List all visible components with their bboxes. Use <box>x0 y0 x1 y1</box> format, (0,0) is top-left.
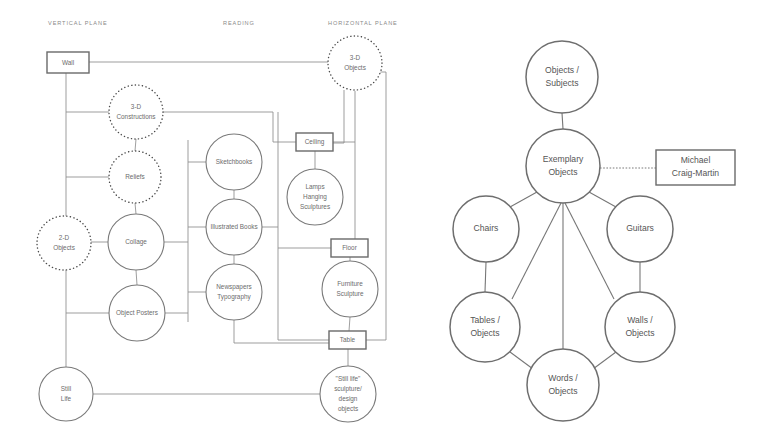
words-objects-label-line-1: Words / <box>548 373 578 383</box>
node-reliefs[interactable]: Reliefs <box>109 151 161 203</box>
node-2d-objects[interactable]: 2-D Objects <box>37 216 91 270</box>
edge-collage-to-object-posters <box>136 270 137 285</box>
tables-objects-label-line-2: Objects <box>470 328 499 338</box>
exemplary-objects-label-line-2: Objects <box>548 167 577 177</box>
node-chairs[interactable]: Chairs <box>453 196 519 262</box>
michael-craig-martin-label-line-2: Craig-Martin <box>672 168 719 178</box>
node-michael-craig-martin[interactable]: Michael Craig-Martin <box>656 150 735 185</box>
2d-objects-label-line-1: 2-D <box>59 234 70 241</box>
tables-objects-label-line-1: Tables / <box>470 315 500 325</box>
words-objects-label-line-2: Objects <box>548 386 577 396</box>
node-sketchbooks[interactable]: Sketchbooks <box>206 134 262 190</box>
right-diagram-nodes: Objects / Subjects Exemplary Objects Cha… <box>450 41 735 421</box>
object-posters-label: Object Posters <box>116 309 158 317</box>
floor-label: Floor <box>342 244 357 251</box>
wall-label: Wall <box>62 59 74 66</box>
3d-objects-label-line-2: Objects <box>344 64 366 72</box>
walls-objects-label-line-2: Objects <box>625 328 654 338</box>
node-objects-subjects[interactable]: Objects / Subjects <box>526 41 598 113</box>
still-life-sculpture-label-line-1: "Still life" <box>336 375 361 382</box>
header-horizontal-plane: HORIZONTAL PLANE <box>328 20 398 26</box>
still-life-label-line-1: Still <box>61 385 71 392</box>
edge-exemplary-to-walls-objects <box>565 203 614 299</box>
2d-objects-label-line-2: Objects <box>53 244 75 252</box>
node-lamps-hanging-sculptures[interactable]: Lamps Hanging Sculptures <box>287 169 343 225</box>
node-3d-objects[interactable]: 3-D Objects <box>328 36 382 90</box>
objects-subjects-label-line-2: Subjects <box>546 78 579 88</box>
node-tables-objects[interactable]: Tables / Objects <box>450 292 520 362</box>
node-3d-constructions[interactable]: 3-D Constructions <box>109 85 163 139</box>
node-floor[interactable]: Floor <box>331 239 368 257</box>
edge-tables-objects-to-words-objects <box>510 352 533 369</box>
objects-subjects-circle[interactable] <box>526 41 598 113</box>
node-guitars[interactable]: Guitars <box>607 196 673 262</box>
edge-reliefs-to-collage <box>135 203 136 214</box>
illustrated-books-label: Illustrated Books <box>210 223 257 230</box>
3d-objects-label-line-1: 3-D <box>350 54 361 61</box>
header-reading: READING <box>223 20 255 26</box>
edge-exemplary-to-chairs <box>510 192 537 207</box>
node-still-life-sculpture-design-objects[interactable]: "Still life" sculpture/ design objects <box>320 366 376 422</box>
ceiling-label: Ceiling <box>305 138 325 146</box>
walls-objects-label-line-1: Walls / <box>627 315 653 325</box>
node-illustrated-books[interactable]: Illustrated Books <box>206 199 262 255</box>
diagram-svg: Wall Ceiling Floor Table 3-D Objects <box>0 0 772 442</box>
node-object-posters[interactable]: Object Posters <box>109 285 165 341</box>
edge-walls-objects-to-words-objects <box>593 352 616 369</box>
reliefs-label: Reliefs <box>125 173 145 180</box>
exemplary-objects-label-line-1: Exemplary <box>543 154 584 164</box>
michael-craig-martin-label-line-1: Michael <box>681 155 711 165</box>
still-life-sculpture-label-line-2: sculpture/ <box>334 385 362 393</box>
node-walls-objects[interactable]: Walls / Objects <box>605 292 675 362</box>
diagram-canvas: Wall Ceiling Floor Table 3-D Objects <box>0 0 772 442</box>
still-life-label-line-2: Life <box>61 395 72 402</box>
still-life-sculpture-label-line-4: objects <box>338 405 358 413</box>
edge-exemplary-to-guitars <box>589 192 616 207</box>
newspapers-typography-label-line-1: Newspapers <box>216 283 252 291</box>
edge-furniture-to-table <box>349 317 350 331</box>
node-exemplary-objects[interactable]: Exemplary Objects <box>526 129 600 203</box>
walls-objects-circle[interactable] <box>605 292 675 362</box>
guitars-label: Guitars <box>626 223 654 233</box>
table-label: Table <box>340 336 356 343</box>
edge-newspapers-to-table <box>234 320 329 343</box>
3d-constructions-label-line-1: 3-D <box>131 103 142 110</box>
node-still-life[interactable]: Still Life <box>39 367 93 421</box>
node-newspapers-typography[interactable]: Newspapers Typography <box>206 264 262 320</box>
sketchbooks-label: Sketchbooks <box>216 158 253 165</box>
edge-3dconstructions-to-reliefs <box>135 139 136 151</box>
node-collage[interactable]: Collage <box>108 214 164 270</box>
edge-exemplary-to-tables-objects <box>512 203 561 299</box>
lamps-label-line-3: Sculptures <box>300 203 330 211</box>
exemplary-objects-circle[interactable] <box>526 129 600 203</box>
header-vertical-plane: VERTICAL PLANE <box>48 20 108 26</box>
edge-objects-subjects-to-exemplary <box>562 113 563 129</box>
node-table[interactable]: Table <box>329 331 366 349</box>
3d-constructions-label-line-2: Constructions <box>116 113 155 120</box>
lamps-label-line-1: Lamps <box>305 183 324 191</box>
node-wall[interactable]: Wall <box>47 52 89 73</box>
edge-chairs-to-tables-objects <box>485 262 486 292</box>
tables-objects-circle[interactable] <box>450 292 520 362</box>
still-life-sculpture-label-line-3: design <box>339 395 358 403</box>
newspapers-typography-label-line-2: Typography <box>217 293 251 301</box>
lamps-label-line-2: Hanging <box>303 193 327 201</box>
collage-label: Collage <box>125 238 147 246</box>
left-diagram-nodes: Wall Ceiling Floor Table 3-D Objects <box>37 20 398 422</box>
furniture-sculpture-label-line-2: Sculpture <box>337 290 364 298</box>
furniture-sculpture-label-line-1: Furniture <box>337 280 363 287</box>
node-ceiling[interactable]: Ceiling <box>296 133 333 151</box>
chairs-label: Chairs <box>474 223 499 233</box>
words-objects-circle[interactable] <box>527 349 599 421</box>
node-furniture-sculpture[interactable]: Furniture Sculpture <box>322 261 378 317</box>
objects-subjects-label-line-1: Objects / <box>545 65 580 75</box>
node-words-objects[interactable]: Words / Objects <box>527 349 599 421</box>
